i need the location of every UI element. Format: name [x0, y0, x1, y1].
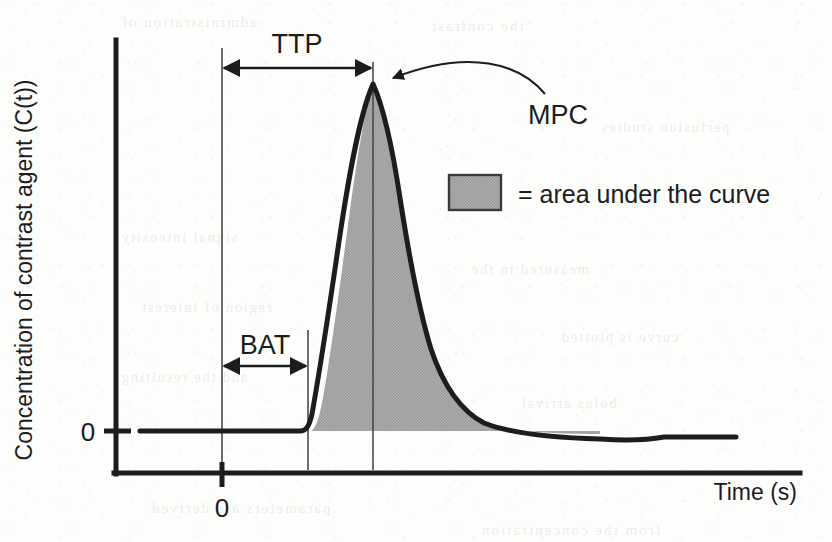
y-axis-label: Concentration of contrast agent (C(t)): [11, 80, 37, 461]
bat-label: BAT: [240, 330, 291, 360]
area-under-curve-swatch: [449, 175, 501, 210]
area-under-curve-fill: [310, 84, 600, 434]
x-axis-zero-label: 0: [215, 493, 229, 523]
mpc-label: MPC: [528, 100, 588, 130]
figure-container: Concentration of contrast agent (C(t)) T…: [0, 0, 832, 542]
y-axis-zero-label: 0: [81, 417, 95, 447]
concentration-time-curve-figure: Concentration of contrast agent (C(t)) T…: [0, 0, 832, 542]
legend-label: = area under the curve: [518, 180, 770, 208]
x-axis-label: Time (s): [714, 479, 797, 505]
ttp-label: TTP: [272, 29, 323, 59]
mpc-leader-line: [393, 62, 545, 94]
